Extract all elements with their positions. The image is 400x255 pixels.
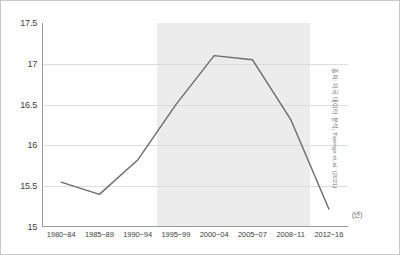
- y-axis-tick-label: 17.5: [20, 18, 37, 28]
- chart-figure: 1515.51616.51717.5 1980~841985~891990~94…: [0, 0, 400, 255]
- y-axis-tick-label: 16.5: [20, 100, 37, 110]
- x-axis-tick-label: 2012~16: [315, 230, 344, 239]
- x-axis-tick-label: 1995~99: [162, 230, 191, 239]
- x-axis-tick-label: 2000~04: [200, 230, 229, 239]
- x-axis-tick-label: 1985~89: [85, 230, 114, 239]
- x-axis-tick-label: 1990~94: [123, 230, 152, 239]
- x-axis-unit-label: (년): [352, 209, 362, 219]
- y-axis-tick-labels: 1515.51616.51717.5: [1, 23, 37, 227]
- source-note: 출처: 미국 데이터 분석, Twenge et al. (2021): [331, 67, 340, 188]
- x-axis-tick-label: 2008~11: [277, 230, 305, 239]
- x-axis-tick-labels: 1980~841985~891990~941995~992000~042005~…: [42, 230, 348, 246]
- y-axis-tick-label: 15: [27, 222, 37, 232]
- y-axis-tick-label: 17: [27, 59, 37, 69]
- x-axis-tick-label: 2005~07: [238, 230, 267, 239]
- x-axis-tick-label: 1980~84: [47, 230, 76, 239]
- plot-area: [42, 23, 348, 227]
- series-line: [42, 23, 348, 227]
- y-axis-tick-label: 16: [27, 140, 37, 150]
- y-axis-tick-label: 15.5: [20, 181, 37, 191]
